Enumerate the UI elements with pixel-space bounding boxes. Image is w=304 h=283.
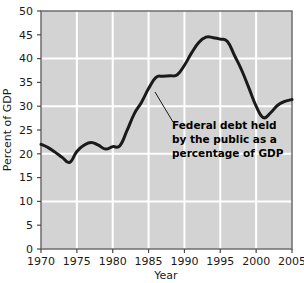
y-axis-title: Percent of GDP [1,88,14,171]
y-tick-label-40: 40 [19,52,33,65]
y-tick-label-15: 15 [19,171,33,184]
y-tick-label-35: 35 [19,76,33,89]
x-tick-label-2000: 2000 [242,255,270,268]
x-tick-label-1970: 1970 [27,255,55,268]
y-tick-label-50: 50 [19,5,33,18]
y-axis: 05101520253035404550 [19,5,41,256]
annotation-line-1: Federal debt held [172,119,277,131]
x-tick-label-2005: 2005 [278,255,304,268]
y-tick-label-10: 10 [19,195,33,208]
x-tick-label-1990: 1990 [170,255,198,268]
y-tick-label-45: 45 [19,29,33,42]
x-tick-label-1995: 1995 [206,255,234,268]
x-tick-label-1985: 1985 [135,255,163,268]
x-tick-label-1980: 1980 [99,255,127,268]
debt-to-gdp-line-chart: 05101520253035404550 1970197519801985199… [0,0,304,283]
y-tick-label-30: 30 [19,100,33,113]
annotation-line-2: by the public as a [172,133,277,145]
y-tick-label-25: 25 [19,124,33,137]
annotation-line-3: percentage of GDP [172,147,284,159]
y-tick-label-20: 20 [19,148,33,161]
x-axis: 19701975198019851990199520002005 [27,249,304,268]
x-axis-title: Year [153,269,178,282]
y-tick-label-0: 0 [26,243,33,256]
x-tick-label-1975: 1975 [63,255,91,268]
chart-container: 05101520253035404550 1970197519801985199… [0,0,304,283]
y-tick-label-5: 5 [26,219,33,232]
